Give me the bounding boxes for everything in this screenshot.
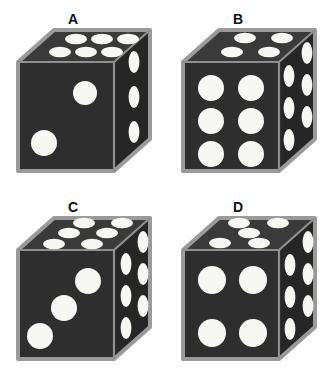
pip-top [58,228,80,238]
pip-top [111,218,133,228]
pip-top [75,47,97,57]
pip-front [239,266,267,294]
pip-front [31,130,57,156]
pip-front [198,108,224,134]
pip-front [238,75,264,101]
die-d-front-face [183,250,279,359]
pip-top [43,239,65,249]
die-cell-c: C [0,188,165,376]
die-label-d: D [233,200,243,214]
die-b-graphic [179,26,319,178]
pip-top [271,33,293,43]
pip-top [73,218,95,228]
die-cell-b: B [165,0,330,188]
pip-right [285,286,296,308]
pip-front [75,268,101,294]
pip-front [238,108,264,134]
pip-right [129,51,140,73]
die-label-c: C [68,200,78,214]
pip-top [49,47,71,57]
pip-top [248,238,270,248]
die-cell-a: A [0,0,165,188]
pip-right [129,121,140,143]
die-b-front-face [183,62,279,171]
die-label-b: B [233,12,243,26]
die-label-a: A [68,12,78,26]
pip-front [198,266,226,294]
pip-top [228,218,250,228]
pip-right [302,74,313,96]
pip-top [238,228,260,238]
pip-right [284,65,295,87]
pip-right [121,285,132,307]
pip-top [81,239,103,249]
pip-top [101,47,123,57]
die-c-graphic [14,214,154,366]
pip-right [285,254,296,276]
pip-right [284,129,295,151]
pip-top [117,34,139,44]
pip-right [303,295,314,317]
pip-top [258,47,280,57]
pip-front [239,319,267,347]
pip-top [209,238,231,248]
pip-right [121,253,132,275]
die-d-graphic [179,214,319,366]
pip-top [221,47,243,57]
pip-right [302,42,313,64]
die-cell-d: D [165,188,330,376]
pip-right [284,97,295,119]
pip-top [267,218,289,228]
pip-front [198,319,226,347]
die-a-graphic [14,26,154,178]
pip-right [129,86,140,108]
pip-front [27,323,53,349]
pip-right [138,295,149,317]
pip-right [303,231,314,253]
pip-right [138,231,149,253]
pip-right [285,318,296,340]
pip-right [302,106,313,128]
die-a-front-face [18,62,114,171]
pip-top [96,228,118,238]
pip-right [138,263,149,285]
pip-front [238,141,264,167]
pip-front [198,141,224,167]
pip-top [65,34,87,44]
pip-top [234,33,256,43]
pip-front [51,295,77,321]
pip-right [303,263,314,285]
pip-front [198,75,224,101]
dice-figure: A B [0,0,331,377]
pip-right [121,317,132,339]
pip-top [91,34,113,44]
pip-front [73,81,97,105]
